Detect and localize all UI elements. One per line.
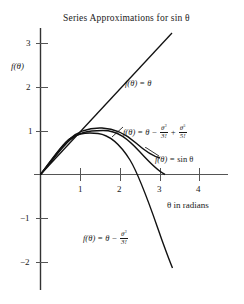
y-tick-label-minus-1: −1 xyxy=(20,214,30,223)
taylor5-leader-line xyxy=(112,126,126,138)
annotation-taylor3-text: f(θ) = θ − θ3 3! xyxy=(83,233,128,243)
plot-area xyxy=(0,0,244,304)
chart-figure: Series Approximations for sin θ f(θ) 3 2… xyxy=(0,0,244,304)
y-tick-label-minus-2: −2 xyxy=(20,258,30,267)
x-tick-label-3: 3 xyxy=(157,185,162,194)
y-tick-label-3: 3 xyxy=(26,39,31,48)
x-axis-label: θ in radians xyxy=(167,201,209,210)
fraction-theta3-3fact: θ3 3! xyxy=(160,125,168,141)
y-tick-label-1: 1 xyxy=(28,127,33,136)
sin-leader-line xyxy=(145,147,161,159)
y-tick-label-2: 2 xyxy=(26,83,31,92)
x-tick-label-1: 1 xyxy=(78,185,83,194)
x-tick-label-2: 2 xyxy=(117,185,122,194)
y-axis-label: f(θ) xyxy=(11,62,24,71)
chart-title: Series Approximations for sin θ xyxy=(63,14,190,24)
annotation-identity-text: f(θ) = θ xyxy=(125,78,151,88)
annotation-taylor3: f(θ) = θ − θ3 3! xyxy=(83,231,128,247)
annotation-taylor5-text: f(θ) = θ − θ3 3! + θ5 5! xyxy=(123,127,187,137)
fraction-theta3-3fact-lower: θ3 3! xyxy=(120,231,128,247)
annotation-identity-line: f(θ) = θ xyxy=(125,79,151,88)
annotation-taylor5: f(θ) = θ − θ3 3! + θ5 5! xyxy=(123,125,187,141)
x-tick-label-4: 4 xyxy=(196,185,201,194)
fraction-theta5-5fact: θ5 5! xyxy=(179,125,187,141)
